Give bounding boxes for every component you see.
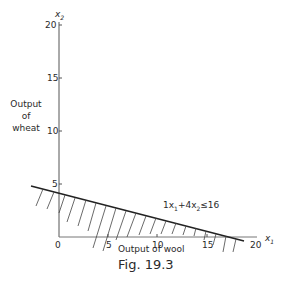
- x-axis-label: Output of wool: [118, 244, 185, 254]
- x-tick-5: 5: [106, 240, 112, 250]
- y-label-line-3: wheat: [6, 122, 46, 134]
- constraint-label: 1x1+4x2≤16: [163, 200, 219, 212]
- y-tick-10: 10: [47, 126, 58, 136]
- x-tick-20: 20: [250, 240, 261, 250]
- x1-axis-symbol: x1: [265, 233, 274, 245]
- y-tick-15: 15: [47, 73, 58, 83]
- y-tick-5: 5: [52, 179, 58, 189]
- x-tick-15: 15: [202, 240, 213, 250]
- x-tick-0: 0: [55, 240, 61, 250]
- constraint-line: [31, 186, 244, 241]
- figure-caption: Fig. 19.3: [118, 257, 174, 272]
- y-axis-label: Output of wheat: [6, 98, 46, 134]
- y-tick-20: 20: [45, 20, 56, 30]
- y-label-line-2: of: [6, 110, 46, 122]
- y-label-line-1: Output: [6, 98, 46, 110]
